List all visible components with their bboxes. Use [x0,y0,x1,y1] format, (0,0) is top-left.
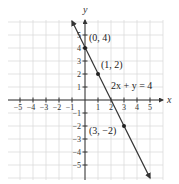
y-tick-label: −5 [72,161,81,170]
y-tick-label: −3 [72,135,81,144]
point-3-neg2 [122,124,126,128]
y-tick-label: −1 [72,109,81,118]
x-tick-label: 3 [122,103,126,112]
y-axis-label: y [82,4,88,15]
x-tick-label: 2 [109,103,113,112]
y-tick-label: 4 [77,44,81,53]
point-label-3-neg2: (3, −2) [89,125,116,137]
y-tick-label: 3 [77,57,81,66]
x-axis-label: x [166,94,172,105]
x-tick-label: 1 [96,103,100,112]
y-tick-label: 2 [77,70,81,79]
point-label-1-2: (1, 2) [101,59,123,71]
point-0-4 [83,46,87,50]
y-tick-label: −2 [72,122,81,131]
x-tick-label: 5 [148,103,152,112]
point-label-0-4: (0, 4) [89,32,111,44]
x-tick-label: −5 [14,103,23,112]
x-tick-label: −3 [40,103,49,112]
equation-label: 2x + y = 4 [111,80,152,91]
line-2x-plus-y-equals-4 [126,130,150,178]
point-1-2 [96,72,100,76]
y-tick-label: −4 [72,148,81,157]
x-tick-label: 4 [135,103,139,112]
y-tick-label: 1 [77,83,81,92]
x-tick-label: −4 [27,103,36,112]
x-tick-label: −2 [53,103,62,112]
coordinate-plane: x y −5−4−3−2−112345 54321−1−2−3−4−5 (0, … [0,0,179,184]
